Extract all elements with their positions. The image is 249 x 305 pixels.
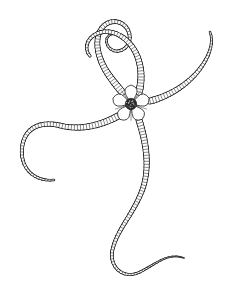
disc-granule	[132, 107, 133, 108]
disc-granule	[129, 101, 130, 102]
disc-granule	[127, 105, 128, 106]
disc-granule	[126, 102, 127, 103]
disc-granule	[129, 102, 130, 103]
disc-granule	[133, 102, 134, 103]
disc-granule	[129, 100, 130, 101]
disc-granule	[129, 106, 130, 107]
brittle-star-figure	[0, 0, 249, 305]
disc-granule	[132, 103, 133, 104]
disc-granule	[133, 104, 134, 105]
disc-granule	[133, 101, 134, 102]
disc-granule	[130, 107, 131, 108]
illustration-canvas: Brittle star (Ophiuroidea) line illustra…	[0, 0, 249, 305]
disc-granule	[132, 100, 133, 101]
disc-granule	[135, 105, 136, 106]
disc-granule	[131, 101, 132, 102]
disc-mouth-plate	[125, 98, 136, 109]
disc-granule	[130, 104, 131, 105]
